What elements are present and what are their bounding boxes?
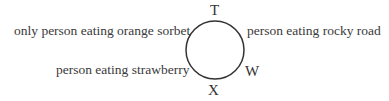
table-circle — [186, 21, 244, 79]
position-w: W — [245, 64, 259, 79]
position-t: T — [210, 3, 219, 18]
position-x: X — [208, 83, 219, 98]
label-strawberry: person eating strawberry — [56, 63, 189, 77]
seating-diagram — [0, 0, 389, 101]
label-rocky-road: person eating rocky road — [247, 24, 381, 38]
label-orange-sorbet: only person eating orange sorbet — [14, 24, 190, 38]
